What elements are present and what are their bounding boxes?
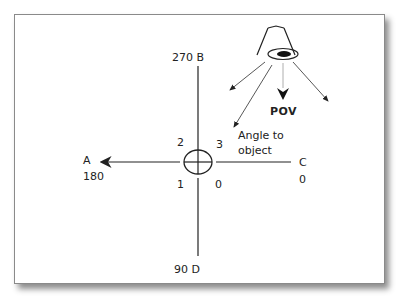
angle-label-line2: object	[238, 144, 272, 157]
label-270-b: 270 B	[172, 51, 204, 64]
label-c-value: 0	[299, 173, 306, 186]
eye-icon	[257, 26, 298, 60]
quadrant-2: 2	[177, 136, 184, 149]
view-arrow-right	[293, 62, 328, 101]
pov-arrowhead-icon	[277, 88, 289, 100]
label-a: A	[83, 154, 91, 167]
quadrant-0: 0	[215, 178, 222, 191]
label-c: C	[299, 156, 307, 169]
pov-label: POV	[270, 105, 297, 118]
compass-diagram	[0, 0, 400, 301]
quadrant-1: 1	[177, 178, 184, 191]
quadrant-3: 3	[216, 138, 223, 151]
label-90-d: 90 D	[174, 263, 200, 276]
crosshair-icon	[184, 150, 212, 174]
angle-label-line1: Angle to	[238, 129, 284, 142]
label-180: 180	[83, 170, 104, 183]
view-arrow-angle	[234, 65, 272, 127]
